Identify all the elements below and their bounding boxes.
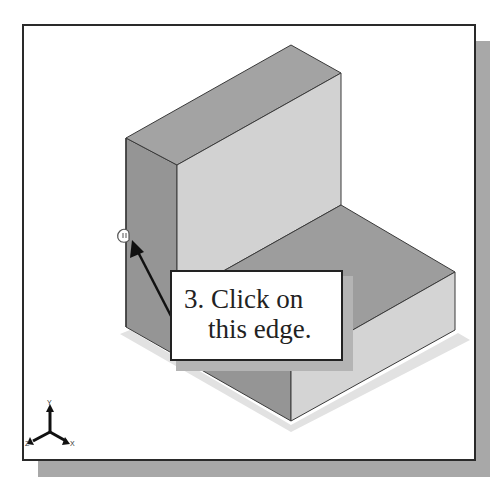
callout-line-2: this edge. [184,314,331,344]
axis-label-y: Y [47,399,52,406]
axis-triad-icon [27,404,70,445]
3d-model-view [0,0,504,488]
axis-label-x: X [70,440,75,447]
axis-label-z: Z [25,440,29,447]
callout-line-1: 3. Click on [184,284,331,314]
pick-cursor-icon [118,229,129,242]
instruction-callout: 3. Click on this edge. [170,270,343,361]
